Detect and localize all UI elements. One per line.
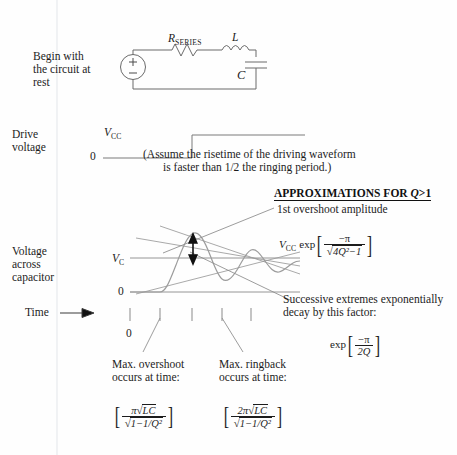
inductor-symbol — [222, 46, 249, 51]
vc-label-sub: C — [119, 258, 124, 267]
ot-den-radicand: 1−1/Q² — [130, 417, 163, 429]
drive-label-line2: voltage — [12, 141, 46, 154]
response-label-line1: Voltage — [12, 245, 47, 258]
decay-fraction: −π2Q — [355, 334, 374, 357]
time-axis-zero-label: 0 — [126, 327, 132, 340]
formula-vcc-v: V — [279, 238, 286, 250]
max-overshoot-caption-line1: Max. overshoot — [112, 358, 184, 371]
approx-heading-tail: >1 — [419, 187, 431, 199]
approximations-heading: APPROXIMATIONS FOR Q>1 — [274, 187, 431, 201]
response-label-line2: across — [12, 258, 41, 271]
drive-vcc-sub: CC — [111, 132, 122, 141]
drive-note-line2: is faster than 1/2 the ringing period.) — [163, 161, 331, 174]
decay-caption-line1: Successive extremes exponentially — [283, 293, 443, 306]
drive-zero-label: 0 — [90, 150, 96, 163]
max-overshoot-caption-line2: occurs at time: — [112, 371, 180, 384]
formula-exp: exp — [296, 238, 315, 250]
decay-denominator: 2Q — [355, 346, 374, 357]
envelope-lines — [136, 226, 300, 294]
vc-label-v: V — [112, 252, 119, 264]
overshoot-radicand: 4Q²−1 — [332, 245, 362, 257]
max-ringback-caption-line1: Max. ringback — [219, 358, 286, 371]
circuit-caption-line1: Begin with — [33, 50, 84, 63]
decay-exp: exp — [330, 338, 346, 350]
ot-bracket-close: ] — [168, 403, 173, 429]
response-zero-label: 0 — [118, 285, 124, 298]
circuit-caption-line2: the circuit at — [33, 63, 90, 76]
rb-den-radicand: 1−1/Q² — [239, 417, 272, 429]
formula-vcc-sub: CC — [286, 244, 297, 253]
decay-bracket-close: ] — [375, 332, 380, 358]
rb-denominator: √1−1/Q² — [231, 417, 275, 429]
circuit-caption-line3: rest — [33, 76, 50, 89]
source-polarity — [129, 58, 137, 73]
ot-radicand: LC — [142, 404, 157, 416]
circuit-schematic — [121, 44, 268, 89]
max-ringback-time-formula: [2π√LC√1−1/Q²] — [222, 403, 284, 429]
approx-heading-q: Q — [411, 187, 419, 199]
timing-leader-lines — [143, 318, 243, 352]
decay-bracket-open: [ — [348, 332, 353, 358]
overshoot-fraction: −π√4Q²−1 — [324, 233, 365, 257]
ot-bracket-open: [ — [115, 403, 120, 429]
overshoot-amplitude-formula: VCCexp[−π√4Q²−1] — [279, 232, 374, 258]
decay-caption-line2: decay by this factor: — [283, 306, 377, 319]
drive-vcc-v: V — [104, 126, 111, 138]
bracket-close: ] — [367, 232, 372, 258]
drive-note-line1: (Assume the risetime of the driving wave… — [143, 148, 356, 161]
drive-vcc-label: VCC — [104, 126, 122, 144]
rb-numerator: 2π√LC — [231, 404, 275, 417]
capacitor-label: C — [237, 69, 245, 82]
rb-pi: 2π — [238, 405, 249, 416]
resistor-label: RSERIES — [168, 32, 202, 50]
drive-label-line1: Drive — [12, 128, 38, 141]
time-axis-arrow — [60, 309, 94, 318]
resistor-label-r: R — [168, 32, 175, 44]
decay-numerator: −π — [355, 334, 374, 346]
rb-bracket-close: ] — [277, 403, 282, 429]
vc-label: VC — [112, 252, 124, 270]
ringing-waveform — [130, 233, 300, 292]
overshoot-arrow — [189, 234, 197, 264]
resistor-label-sub: SERIES — [175, 38, 202, 47]
max-ringback-caption-line2: occurs at time: — [219, 371, 287, 384]
time-axis-label: Time — [25, 306, 49, 319]
inductor-label: L — [232, 31, 238, 44]
time-axis-ticks — [130, 308, 251, 321]
ot-denominator: √1−1/Q² — [122, 417, 166, 429]
overshoot-denominator: √4Q²−1 — [324, 245, 365, 257]
ot-fraction: π√LC√1−1/Q² — [122, 404, 166, 429]
overshoot-numerator: −π — [324, 233, 365, 245]
approx-heading-text: APPROXIMATIONS FOR — [274, 187, 411, 199]
ot-numerator: π√LC — [122, 404, 166, 417]
rb-bracket-open: [ — [224, 403, 229, 429]
bracket-open: [ — [317, 232, 322, 258]
response-label-line3: capacitor — [12, 271, 54, 284]
overshoot-amplitude-caption: 1st overshoot amplitude — [277, 203, 388, 216]
max-overshoot-time-formula: [π√LC√1−1/Q²] — [113, 403, 175, 429]
leader-lines — [163, 208, 290, 300]
diagram-canvas: Begin with the circuit at rest RSERIES L… — [0, 0, 457, 455]
decay-factor-formula: exp[−π2Q] — [330, 332, 382, 358]
rb-fraction: 2π√LC√1−1/Q² — [231, 404, 275, 429]
rb-radicand: LC — [253, 404, 268, 416]
